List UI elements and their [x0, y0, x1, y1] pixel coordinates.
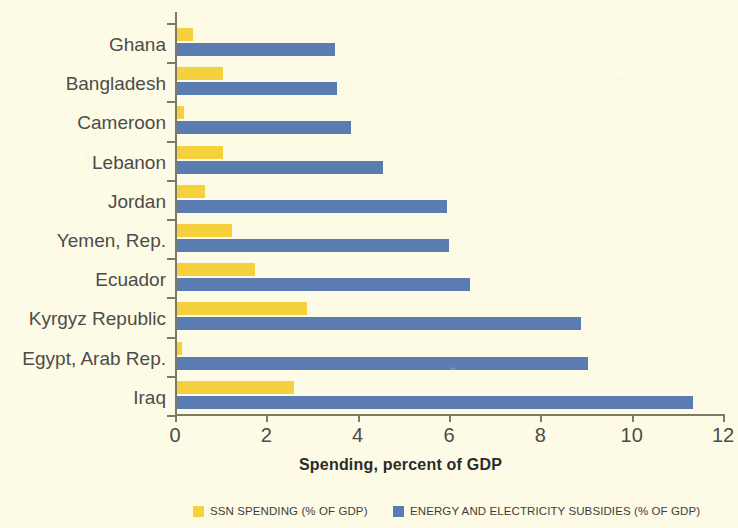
y-axis-category-label: Ecuador	[0, 269, 166, 291]
bar-ssn-spending	[175, 302, 307, 315]
x-axis-tick-label: 12	[693, 424, 738, 447]
x-axis-tick-label: 4	[328, 424, 388, 447]
y-axis-line	[175, 12, 177, 415]
bar-energy-subsidies	[175, 82, 337, 95]
bar-ssn-spending	[175, 67, 223, 80]
y-axis-category-label: Iraq	[0, 387, 166, 409]
y-axis-tick	[167, 219, 175, 221]
bar-ssn-spending	[175, 185, 205, 198]
legend-swatch-ssn	[193, 506, 204, 517]
x-axis-tick	[449, 414, 451, 422]
y-axis-tick	[167, 297, 175, 299]
y-axis-tick	[167, 180, 175, 182]
y-axis-category-label: Egypt, Arab Rep.	[0, 348, 166, 370]
y-axis-category-label: Bangladesh	[0, 73, 166, 95]
bar-energy-subsidies	[175, 43, 335, 56]
y-axis-category-label: Cameroon	[0, 112, 166, 134]
y-axis-tick	[167, 101, 175, 103]
y-axis-category-label: Jordan	[0, 191, 166, 213]
y-axis-tick	[167, 62, 175, 64]
plot-area	[175, 12, 723, 412]
bar-ssn-spending	[175, 224, 232, 237]
chart-legend: SSN SPENDING (% OF GDP) ENERGY AND ELECT…	[0, 505, 731, 525]
x-axis-tick	[266, 414, 268, 422]
x-axis-tick-label: 0	[145, 424, 205, 447]
x-axis-tick	[723, 414, 725, 422]
bar-energy-subsidies	[175, 317, 581, 330]
bar-energy-subsidies	[175, 357, 588, 370]
x-axis-tick-label: 6	[419, 424, 479, 447]
x-axis-tick	[632, 414, 634, 422]
x-axis-tick	[358, 414, 360, 422]
x-axis-tick-label: 2	[236, 424, 296, 447]
y-axis-tick	[167, 376, 175, 378]
bar-ssn-spending	[175, 146, 223, 159]
bar-ssn-spending	[175, 381, 294, 394]
y-axis-category-label: Ghana	[0, 34, 166, 56]
bar-ssn-spending	[175, 263, 255, 276]
x-axis-title: Spending, percent of GDP	[0, 456, 731, 474]
y-axis-tick	[167, 141, 175, 143]
y-axis-category-label: Yemen, Rep.	[0, 230, 166, 252]
x-axis-tick	[540, 414, 542, 422]
bar-energy-subsidies	[175, 200, 447, 213]
bar-energy-subsidies	[175, 278, 470, 291]
bar-energy-subsidies	[175, 161, 383, 174]
legend-label-energy: ENERGY AND ELECTRICITY SUBSIDIES (% OF G…	[410, 505, 700, 517]
y-axis-tick	[167, 337, 175, 339]
y-axis-tick	[167, 258, 175, 260]
x-axis-tick	[175, 414, 177, 422]
y-axis-tick	[167, 23, 175, 25]
legend-entry-energy: ENERGY AND ELECTRICITY SUBSIDIES (% OF G…	[393, 505, 700, 517]
bar-energy-subsidies	[175, 396, 693, 409]
x-axis-tick-label: 8	[510, 424, 570, 447]
bar-energy-subsidies	[175, 239, 449, 252]
y-axis-tick	[167, 415, 175, 417]
legend-label-ssn: SSN SPENDING (% OF GDP)	[210, 505, 368, 517]
bar-ssn-spending	[175, 28, 193, 41]
legend-entry-ssn: SSN SPENDING (% OF GDP)	[193, 505, 368, 517]
legend-swatch-energy	[393, 506, 404, 517]
y-axis-category-label: Kyrgyz Republic	[0, 308, 166, 330]
y-axis-category-label: Lebanon	[0, 152, 166, 174]
x-axis-title-text: Spending, percent of GDP	[299, 456, 502, 474]
x-axis-tick-label: 10	[602, 424, 662, 447]
bar-energy-subsidies	[175, 121, 351, 134]
